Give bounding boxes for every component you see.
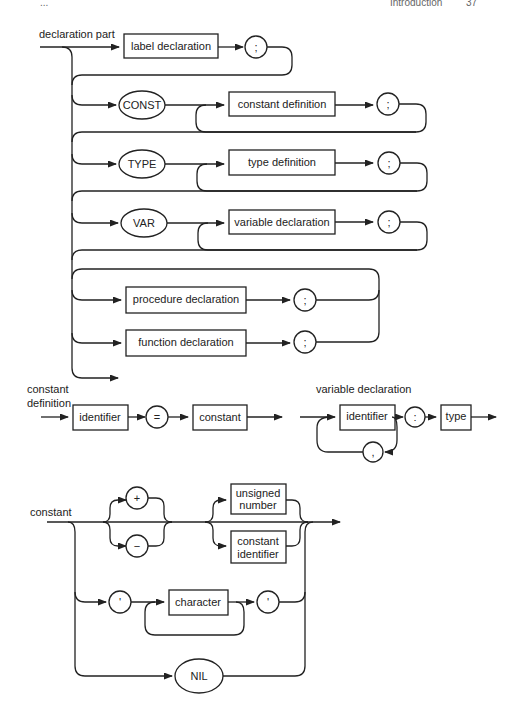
svg-text:identifier: identifier xyxy=(237,548,279,560)
svg-text:identifier: identifier xyxy=(346,410,388,422)
svg-text:TYPE: TYPE xyxy=(128,158,157,170)
svg-text:−: − xyxy=(134,540,140,552)
svg-text:unsigned: unsigned xyxy=(236,487,281,499)
svg-text:': ' xyxy=(119,596,121,608)
svg-text:constant definition: constant definition xyxy=(238,98,327,110)
svg-text::: : xyxy=(413,411,416,423)
svg-text:;: ; xyxy=(386,98,389,110)
constant-definition-diagram: constant definition identifier = constan… xyxy=(27,383,282,430)
svg-text:;: ; xyxy=(387,157,390,169)
svg-text:constant: constant xyxy=(30,506,72,518)
svg-text:+: + xyxy=(134,492,140,504)
svg-text:;: ; xyxy=(303,294,306,306)
svg-text:type: type xyxy=(446,410,467,422)
svg-text:;: ; xyxy=(254,41,257,53)
svg-text:;: ; xyxy=(387,216,390,228)
svg-text:variable declaration: variable declaration xyxy=(316,383,411,395)
svg-text:constant: constant xyxy=(199,411,241,423)
svg-text:variable declaration: variable declaration xyxy=(234,216,329,228)
svg-text:number: number xyxy=(239,499,277,511)
svg-text:procedure declaration: procedure declaration xyxy=(133,293,239,305)
svg-text:VAR: VAR xyxy=(133,217,155,229)
svg-text:function declaration: function declaration xyxy=(138,336,233,348)
svg-text:character: character xyxy=(175,596,221,608)
svg-text:type definition: type definition xyxy=(248,156,316,168)
page-header-left: ... xyxy=(40,0,48,8)
svg-text:;: ; xyxy=(303,336,306,348)
declaration-part-diagram: declaration part label declaration ; CON… xyxy=(39,28,427,378)
svg-text:NIL: NIL xyxy=(190,670,207,682)
variable-declaration-diagram: variable declaration identifier : type , xyxy=(300,383,496,462)
svg-text:=: = xyxy=(154,411,160,423)
svg-text:': ' xyxy=(267,596,269,608)
svg-text:identifier: identifier xyxy=(79,411,121,423)
svg-text:definition: definition xyxy=(27,397,71,409)
svg-text:constant: constant xyxy=(27,383,69,395)
svg-text:constant: constant xyxy=(237,535,279,547)
page-header-title: Introduction xyxy=(390,0,442,8)
svg-text:,: , xyxy=(371,446,374,458)
page-number: 37 xyxy=(466,0,478,8)
svg-text:label declaration: label declaration xyxy=(131,40,211,52)
svg-text:CONST: CONST xyxy=(123,99,162,111)
syntax-diagrams: ... Introduction 37 declaration part lab… xyxy=(0,0,526,703)
declaration-part-title: declaration part xyxy=(39,28,115,40)
constant-diagram: constant + − unsigned number constant id… xyxy=(30,484,340,693)
